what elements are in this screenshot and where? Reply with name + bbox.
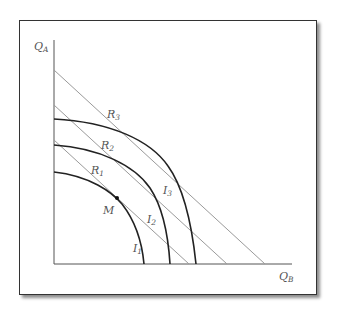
label-i2: I2 — [146, 213, 156, 227]
label-i3: I3 — [162, 184, 172, 198]
indifference-curve-i1 — [54, 172, 144, 264]
label-r1: R1 — [90, 164, 104, 178]
diagram: QA QB R3 R2 R1 I3 I2 I1 M — [0, 0, 337, 313]
budget-line-r3 — [54, 70, 265, 264]
y-axis-label: QA — [34, 40, 49, 54]
label-r2: R2 — [100, 139, 114, 153]
x-axis-label: QB — [279, 270, 294, 284]
label-m: M — [102, 204, 115, 217]
indifference-curve-i3 — [54, 119, 196, 264]
label-r3: R3 — [106, 108, 120, 122]
point-m-marker — [115, 196, 119, 200]
